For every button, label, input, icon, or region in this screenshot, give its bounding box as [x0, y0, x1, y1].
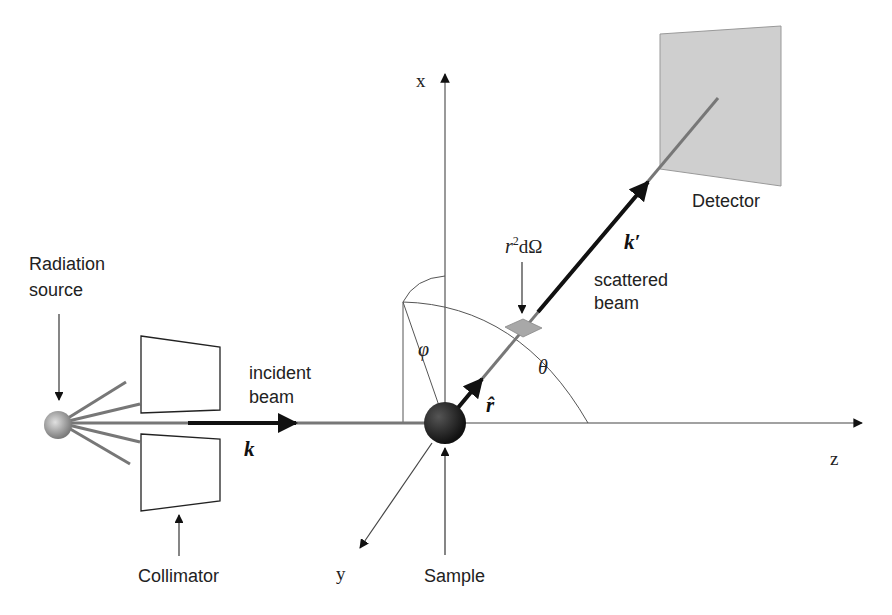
radiation-source-sphere [44, 411, 72, 439]
incident-beam-label: incident [249, 363, 311, 383]
incident-beam-label-2: beam [249, 387, 294, 407]
unit-vector-label: r̂ [486, 393, 495, 417]
scattered-wavevector-label: k′ [624, 230, 640, 254]
y-axis [360, 443, 432, 548]
theta-label: θ [538, 356, 548, 378]
detector-plate [660, 26, 781, 186]
sample-sphere [424, 402, 466, 444]
z-axis-label: z [830, 448, 838, 469]
solid-angle-label: r2dΩ [505, 234, 542, 257]
scattered-beam-label: scattered [594, 270, 668, 290]
phi-label: φ [418, 338, 429, 361]
collimator-label: Collimator [138, 566, 219, 586]
solid-angle-element [505, 319, 542, 337]
y-axis-label: y [336, 563, 346, 584]
x-axis-label: x [416, 70, 426, 91]
scattered-beam-label-2: beam [594, 293, 639, 313]
sample-label: Sample [424, 566, 485, 586]
collimator-lower [141, 434, 220, 511]
radiation-source-label-2: source [29, 280, 83, 300]
incident-wavevector-label: k [244, 437, 255, 461]
scattering-diagram: Radiation source Collimator incident bea… [0, 0, 892, 615]
radiation-source-label: Radiation [29, 254, 105, 274]
detector-label: Detector [692, 191, 760, 211]
collimator-upper [141, 336, 220, 413]
phi-arc [403, 276, 445, 302]
